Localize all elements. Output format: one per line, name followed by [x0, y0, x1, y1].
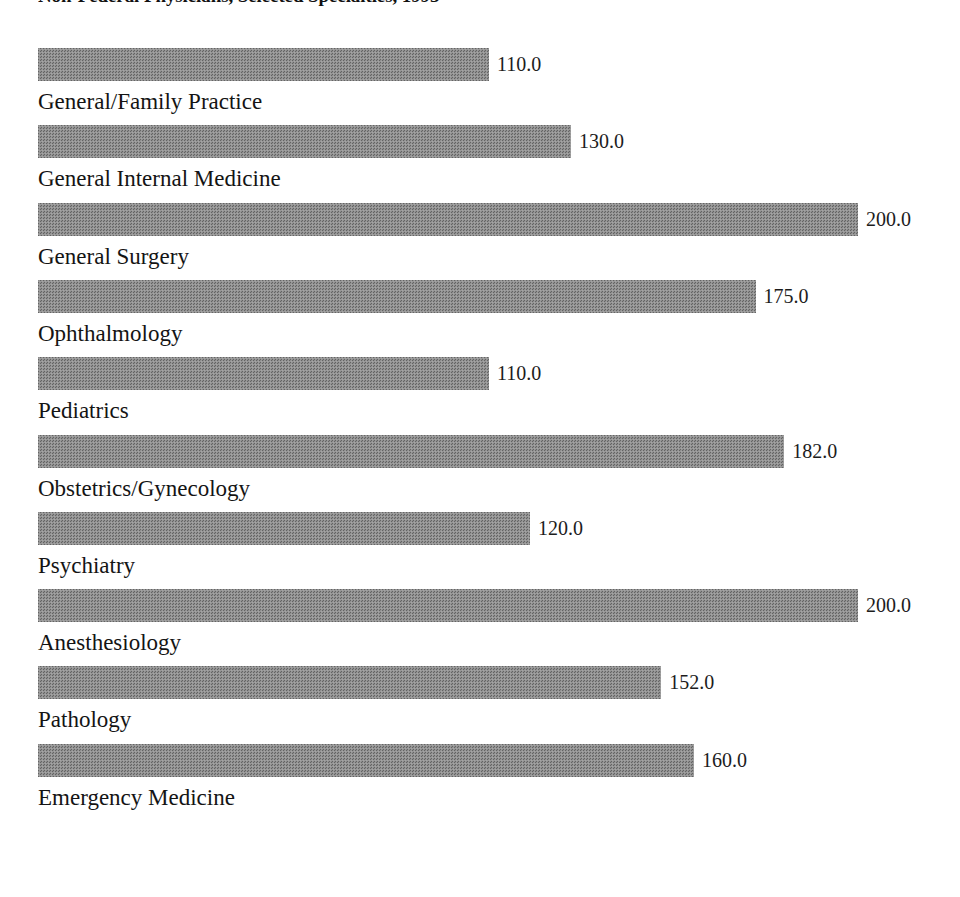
bar-value-label: 200.0: [866, 592, 911, 618]
bar-item: 110.0General/Family Practice: [0, 48, 960, 81]
bar-value-label: 110.0: [497, 51, 541, 77]
bar-value-label: 110.0: [497, 360, 541, 386]
bar-row: 152.0: [0, 666, 960, 699]
bar-category-label: General Internal Medicine: [38, 164, 281, 194]
bar-row: 110.0: [0, 357, 960, 390]
bar-item: 200.0Anesthesiology: [0, 589, 960, 622]
bar-row: 200.0: [0, 589, 960, 622]
bar-category-label: Anesthesiology: [38, 628, 181, 658]
bar-item: 200.0General Surgery: [0, 203, 960, 236]
bar-category-label: Pediatrics: [38, 396, 129, 426]
bar-rect: [38, 125, 571, 158]
bar-category-label: General/Family Practice: [38, 87, 262, 117]
bar-row: 182.0: [0, 435, 960, 468]
bar-row: 175.0: [0, 280, 960, 313]
bar-rect: [38, 48, 489, 81]
bar-category-label: Pathology: [38, 705, 131, 735]
bar-rect: [38, 744, 694, 777]
bar-item: 110.0Pediatrics: [0, 357, 960, 390]
bar-value-label: 152.0: [669, 669, 714, 695]
bar-value-label: 160.0: [702, 747, 747, 773]
bar-value-label: 120.0: [538, 515, 583, 541]
bar-rect: [38, 512, 530, 545]
bar-item: 152.0Pathology: [0, 666, 960, 699]
bar-category-label: Ophthalmology: [38, 319, 182, 349]
bar-rect: [38, 357, 489, 390]
bar-row: 110.0: [0, 48, 960, 81]
bar-item: 160.0Emergency Medicine: [0, 744, 960, 777]
bar-value-label: 182.0: [792, 438, 837, 464]
bar-item: 130.0General Internal Medicine: [0, 125, 960, 158]
bar-chart: Non-Federal Physicians, Selected Special…: [0, 0, 960, 897]
bar-item: 120.0Psychiatry: [0, 512, 960, 545]
bar-rect: [38, 280, 756, 313]
bar-category-label: Psychiatry: [38, 551, 135, 581]
bar-rect: [38, 589, 858, 622]
bar-category-label: Obstetrics/Gynecology: [38, 474, 250, 504]
bar-value-label: 175.0: [764, 283, 809, 309]
bar-row: 160.0: [0, 744, 960, 777]
bar-item: 182.0Obstetrics/Gynecology: [0, 435, 960, 468]
bar-rect: [38, 666, 661, 699]
bar-category-label: General Surgery: [38, 242, 189, 272]
bar-row: 120.0: [0, 512, 960, 545]
bar-row: 200.0: [0, 203, 960, 236]
bar-rect: [38, 203, 858, 236]
bar-rect: [38, 435, 784, 468]
bar-category-label: Emergency Medicine: [38, 783, 235, 813]
bar-value-label: 200.0: [866, 206, 911, 232]
bar-item: 175.0Ophthalmology: [0, 280, 960, 313]
plot-area: 110.0General/Family Practice130.0General…: [0, 0, 960, 897]
bar-value-label: 130.0: [579, 128, 624, 154]
bar-row: 130.0: [0, 125, 960, 158]
